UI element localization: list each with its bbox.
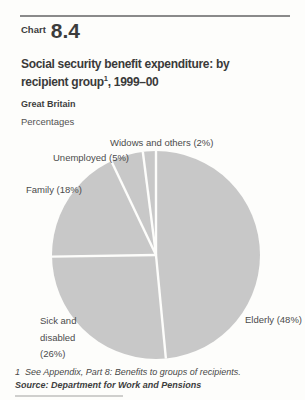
chart-title-line2: recipient group [21, 75, 104, 89]
chart-title-year: , 1999–00 [108, 75, 159, 89]
next-chart-rule-fragment [15, 395, 123, 397]
slice-label-sick-and-disabled: Sick and disabled (26%) [40, 313, 88, 363]
top-rule [20, 15, 290, 17]
slice-label-unemployed: Unemployed (5%) [53, 152, 129, 163]
chart-title: Social security benefit expenditure: byr… [21, 56, 291, 91]
source-text: Source: Department for Work and Pensions [15, 380, 201, 390]
slice-label-family: Family (18%) [26, 184, 82, 195]
chart-title-line1: Social security benefit expenditure: by [21, 57, 229, 71]
footnote-text: 1 See Appendix, Part 8: Benefits to grou… [15, 367, 241, 377]
chart-kicker: Chart [21, 24, 46, 35]
chart-page: Chart 8.4 Social security benefit expend… [0, 0, 305, 400]
unit-label: Percentages [21, 116, 74, 127]
slice-label-widows-and-others: Widows and others (2%) [110, 137, 213, 148]
slice-label-elderly: Elderly (48%) [245, 314, 302, 325]
chart-header: Chart 8.4 [21, 20, 80, 41]
chart-number: 8.4 [51, 20, 80, 41]
region-label: Great Britain [21, 99, 76, 109]
